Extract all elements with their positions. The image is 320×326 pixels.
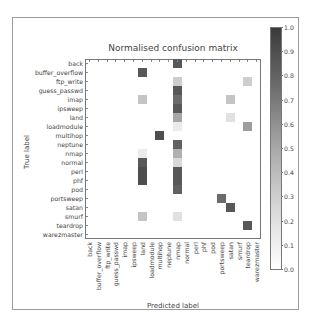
- chart-title: Normalised confusion matrix: [85, 43, 261, 53]
- heatmap-cell: [138, 95, 147, 104]
- heatmap-cell: [226, 95, 235, 104]
- x-tick-mark: [256, 60, 257, 62]
- x-tick-mark: [195, 60, 196, 62]
- y-tick-mark: [86, 153, 88, 154]
- y-tick-label: guess_passwd: [39, 86, 83, 95]
- heatmap-cell: [173, 104, 182, 113]
- y-tick-label: neptune: [57, 140, 83, 149]
- colorbar-tick-label: 1.0: [284, 24, 294, 31]
- x-tick-mark: [239, 60, 240, 62]
- x-tick-label: nmap: [173, 242, 182, 260]
- heatmap-cell: [243, 122, 252, 131]
- colorbar-tick-label: 0.5: [284, 145, 294, 152]
- heatmap-cell: [173, 113, 182, 122]
- heatmap-cell: [217, 194, 226, 203]
- colorbar-tick-label: 0.2: [284, 218, 294, 225]
- heatmap-cell: [173, 167, 182, 176]
- x-tick-label: imap: [120, 242, 129, 257]
- x-tick-label: portsweep: [217, 242, 226, 275]
- heatmap-cell: [243, 77, 252, 86]
- y-tick-mark: [86, 135, 88, 136]
- y-tick-mark: [86, 225, 88, 226]
- y-tick-label: buffer_overflow: [35, 68, 83, 77]
- x-tick-label: neptune: [164, 242, 173, 268]
- y-tick-label: normal: [61, 158, 83, 167]
- heatmap-cell: [173, 149, 182, 158]
- x-axis-title: Predicted label: [85, 302, 261, 310]
- x-tick-label: land: [138, 242, 147, 255]
- x-tick-mark: [203, 60, 204, 62]
- x-tick-label: satan: [226, 242, 235, 259]
- y-tick-label: phf: [73, 176, 83, 185]
- x-tick-mark: [107, 60, 108, 62]
- heatmap-cell: [138, 158, 147, 167]
- y-tick-mark: [86, 117, 88, 118]
- x-tick-mark: [133, 60, 134, 62]
- heatmap-cell: [173, 185, 182, 194]
- heatmap-cell: [138, 68, 147, 77]
- colorbar-tick-label: 0.6: [284, 121, 294, 128]
- y-tick-mark: [86, 90, 88, 91]
- x-tick-label: warezmaster: [252, 242, 261, 282]
- y-tick-label: nmap: [65, 149, 83, 158]
- x-tick-mark: [89, 60, 90, 62]
- colorbar-tick-label: 0.1: [284, 242, 294, 249]
- x-tick-mark: [230, 60, 231, 62]
- colorbar-tick-label: 0.7: [284, 97, 294, 104]
- y-tick-label: loadmodule: [47, 122, 83, 131]
- heatmap-cell: [173, 176, 182, 185]
- y-tick-label: portsweep: [50, 194, 83, 203]
- x-tick-mark: [247, 60, 248, 62]
- colorbar-tick-label: 0.9: [284, 48, 294, 55]
- y-tick-label: imap: [68, 95, 83, 104]
- x-tick-label: normal: [182, 242, 191, 264]
- y-axis-title: True label: [23, 135, 31, 169]
- heatmap-cell: [173, 86, 182, 95]
- y-tick-mark: [86, 108, 88, 109]
- y-tick-mark: [86, 171, 88, 172]
- heatmap-cell: [226, 203, 235, 212]
- heatmap-cell: [243, 221, 252, 230]
- heatmap-cell: [173, 140, 182, 149]
- x-tick-mark: [177, 60, 178, 62]
- colorbar-tick-label: 0.4: [284, 169, 294, 176]
- y-tick-label: smurf: [65, 212, 83, 221]
- y-tick-mark: [86, 234, 88, 235]
- x-tick-label: back: [85, 242, 94, 257]
- y-tick-mark: [86, 198, 88, 199]
- x-tick-label: buffer_overflow: [94, 242, 103, 290]
- colorbar-tick-label: 0.0: [284, 266, 294, 273]
- heatmap-cell: [138, 176, 147, 185]
- y-tick-label: ftp_write: [56, 77, 83, 86]
- x-tick-mark: [151, 60, 152, 62]
- y-tick-mark: [86, 207, 88, 208]
- y-tick-label: pod: [71, 185, 83, 194]
- heatmap-plot-area: [85, 59, 261, 239]
- y-tick-label: perl: [71, 167, 83, 176]
- y-tick-mark: [86, 63, 88, 64]
- x-tick-label: ipsweep: [129, 242, 138, 267]
- x-tick-mark: [124, 60, 125, 62]
- y-tick-mark: [86, 180, 88, 181]
- y-tick-label: multihop: [56, 131, 83, 140]
- x-tick-mark: [221, 60, 222, 62]
- y-tick-mark: [86, 72, 88, 73]
- y-tick-mark: [86, 126, 88, 127]
- y-tick-label: land: [70, 113, 83, 122]
- y-tick-mark: [86, 189, 88, 190]
- x-tick-label: pod: [208, 242, 217, 254]
- x-tick-mark: [98, 60, 99, 62]
- x-tick-mark: [142, 60, 143, 62]
- y-tick-mark: [86, 144, 88, 145]
- heatmap-cell: [138, 212, 147, 221]
- heatmap-cell: [226, 113, 235, 122]
- y-tick-mark: [86, 216, 88, 217]
- x-tick-mark: [212, 60, 213, 62]
- heatmap-cell: [155, 131, 164, 140]
- heatmap-cell: [173, 158, 182, 167]
- y-tick-label: back: [68, 59, 83, 68]
- heatmap-cell: [138, 167, 147, 176]
- x-tick-mark: [159, 60, 160, 62]
- heatmap-cell: [173, 212, 182, 221]
- colorbar-tick-label: 0.8: [284, 72, 294, 79]
